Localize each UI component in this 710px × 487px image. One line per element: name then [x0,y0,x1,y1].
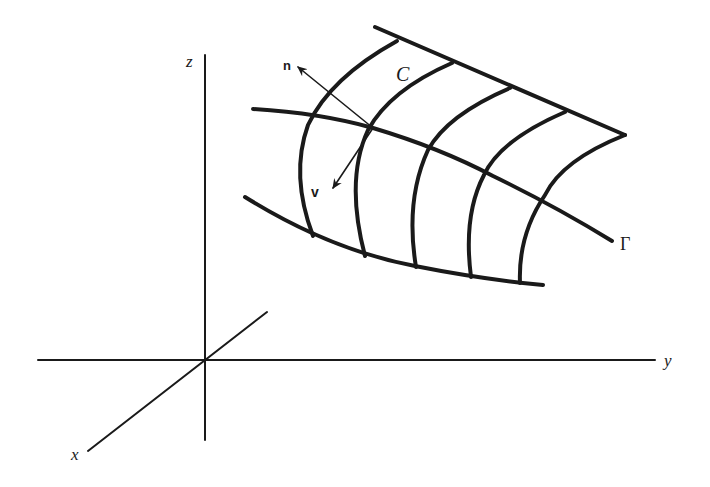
grid-curve-1 [300,41,397,236]
surface-bottom-edge [245,197,543,285]
normal-vector-label: n [283,58,291,73]
vector-v-label: v [311,184,319,200]
grid-curve-4 [469,112,565,277]
surface-patch [245,27,625,285]
surface-top-edge [375,27,625,135]
surface-diagram: z y x n v C Γ [0,0,710,487]
curve-gamma-label: Γ [620,234,630,254]
z-axis-label: z [185,52,193,71]
grid-curve-2-c [356,63,452,256]
curve-c-label: C [396,63,410,85]
x-axis-label: x [70,445,79,464]
x-axis [88,312,267,451]
y-axis-label: y [662,351,672,370]
surface-right-edge [520,135,625,283]
vector-v [333,128,373,188]
